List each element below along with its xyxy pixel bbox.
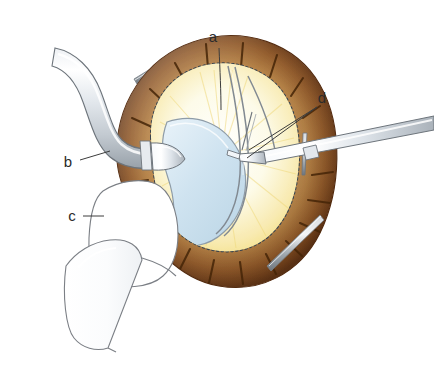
label-b: b <box>64 153 72 170</box>
cannula-collar <box>140 141 152 170</box>
label-a: a <box>209 28 218 45</box>
surgical-illustration: a b c d <box>0 0 434 374</box>
label-d: d <box>318 89 326 106</box>
figure-root: a b c d <box>0 0 434 374</box>
label-c: c <box>68 207 76 224</box>
